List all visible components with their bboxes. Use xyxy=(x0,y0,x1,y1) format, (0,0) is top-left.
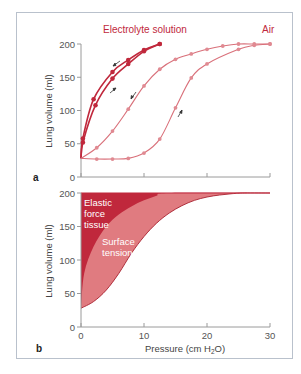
panel-a-y-axis-label: Lung volume (ml) xyxy=(43,74,54,147)
data-point xyxy=(189,52,193,56)
panel-b-y-axis-label: Lung volume (ml) xyxy=(43,224,54,297)
y-tick-label: 50 xyxy=(64,138,75,149)
data-point xyxy=(126,107,130,111)
x-axis-label-main: Pressure (cm H xyxy=(145,343,211,354)
data-point xyxy=(237,42,241,46)
data-point xyxy=(95,157,99,161)
data-point xyxy=(174,57,178,61)
panel-a-letter: a xyxy=(33,172,39,183)
data-point xyxy=(174,106,178,110)
data-point xyxy=(268,42,272,46)
panel-b-letter: b xyxy=(36,343,42,354)
data-point xyxy=(95,146,99,150)
data-point xyxy=(221,44,225,48)
data-point xyxy=(158,67,162,71)
electrolyte-solution-label: Electrolyte solution xyxy=(103,24,187,35)
y-tick-label: 0 xyxy=(70,172,75,183)
x-tick-label: 20 xyxy=(202,330,213,341)
data-point xyxy=(91,97,96,102)
y-tick-label: 200 xyxy=(59,39,75,50)
data-point xyxy=(81,140,86,145)
data-point xyxy=(157,42,162,47)
elastic-force-tissue-label-1: Elastic xyxy=(84,197,112,208)
y-tick-label: 100 xyxy=(59,105,75,116)
data-point xyxy=(110,70,115,75)
y-tick-label: 100 xyxy=(59,255,75,266)
x-tick-label: 0 xyxy=(78,330,83,341)
elastic-force-tissue-label-3: tissue xyxy=(84,219,109,230)
data-point xyxy=(142,49,147,54)
air-label: Air xyxy=(262,24,275,35)
surface-tension-label-2: tension xyxy=(102,247,133,258)
data-point xyxy=(158,137,162,141)
surface-tension-label-1: Surface xyxy=(102,236,135,247)
data-point xyxy=(142,84,146,88)
data-point xyxy=(111,129,115,133)
x-tick-label: 30 xyxy=(265,330,276,341)
x-axis-label-end: O) xyxy=(215,343,226,354)
y-tick-label: 0 xyxy=(70,322,75,333)
y-tick-label: 50 xyxy=(64,288,75,299)
data-point xyxy=(110,76,115,81)
data-point xyxy=(205,62,209,66)
data-point xyxy=(189,76,193,80)
data-point xyxy=(126,156,130,160)
data-point xyxy=(126,62,131,67)
figure-frame xyxy=(17,13,293,359)
data-point xyxy=(205,47,209,51)
data-point xyxy=(111,157,115,161)
y-tick-label: 150 xyxy=(59,221,75,232)
x-tick-label: 10 xyxy=(139,330,150,341)
data-point xyxy=(93,103,98,108)
y-tick-label: 150 xyxy=(59,72,75,83)
data-point xyxy=(237,47,241,51)
data-point xyxy=(252,43,256,47)
y-tick-label: 200 xyxy=(59,188,75,199)
elastic-force-tissue-label-2: force xyxy=(84,208,105,219)
figure: 050100150200 Lung volume (ml) Electrolyt… xyxy=(0,0,301,374)
data-point xyxy=(142,151,146,155)
